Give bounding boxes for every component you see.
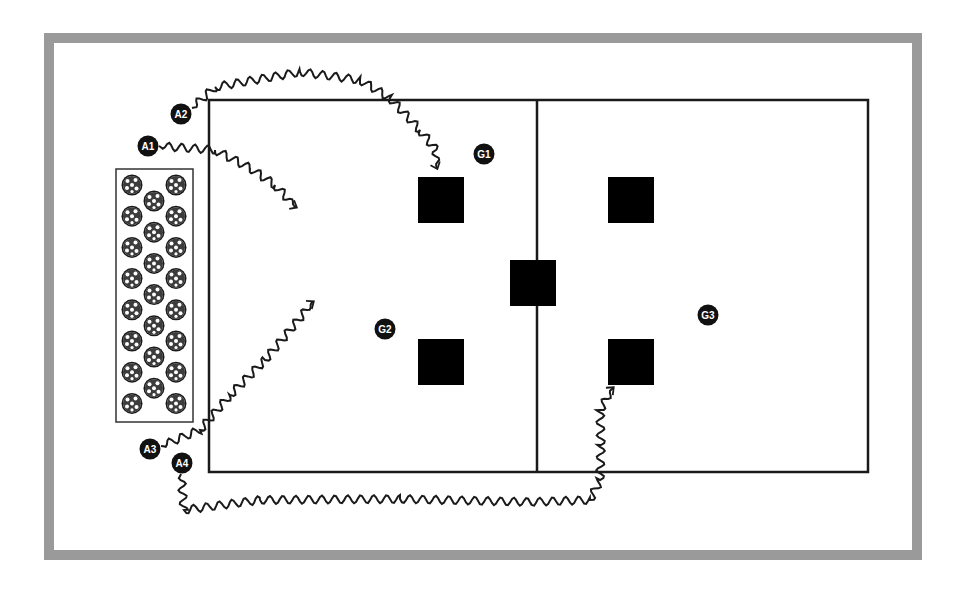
drill-diagram: A1A2A3A4G1G2G3 <box>0 0 963 594</box>
player-a1: A1 <box>138 136 159 157</box>
soccer-ball-icon <box>166 206 187 227</box>
player-label: G3 <box>701 310 715 321</box>
soccer-ball-icon <box>166 393 187 414</box>
soccer-ball-icon <box>166 299 187 320</box>
player-a4: A4 <box>172 453 193 474</box>
path-a4-dribble <box>178 388 613 513</box>
player-label: G2 <box>378 324 392 335</box>
player-g2: G2 <box>375 319 396 340</box>
player-label: A2 <box>175 109 188 120</box>
soccer-ball-icon <box>122 268 143 289</box>
soccer-ball-icon <box>122 362 143 383</box>
player-g1: G1 <box>474 144 495 165</box>
cone-2 <box>418 339 464 385</box>
soccer-ball-icon <box>144 191 165 212</box>
soccer-ball-icon <box>122 237 143 258</box>
soccer-ball-icon <box>122 393 143 414</box>
soccer-ball-icon <box>144 284 165 305</box>
player-g3: G3 <box>698 305 719 326</box>
soccer-ball-icon <box>166 175 187 196</box>
player-label: A1 <box>142 141 155 152</box>
soccer-ball-icon <box>122 175 143 196</box>
ball-bin <box>116 169 193 422</box>
player-label: G1 <box>477 149 491 160</box>
players-group: A1A2A3A4G1G2G3 <box>138 104 719 474</box>
soccer-ball-icon <box>166 237 187 258</box>
soccer-ball-icon <box>122 299 143 320</box>
player-label: A3 <box>144 444 157 455</box>
cone-4 <box>608 177 654 223</box>
soccer-ball-icon <box>166 362 187 383</box>
soccer-ball-icon <box>144 347 165 368</box>
player-a3: A3 <box>140 439 161 460</box>
soccer-ball-icon <box>166 268 187 289</box>
cone-5 <box>608 339 654 385</box>
player-label: A4 <box>176 458 189 469</box>
player-a2: A2 <box>171 104 192 125</box>
soccer-ball-icon <box>122 206 143 227</box>
soccer-ball-icon <box>144 378 165 399</box>
soccer-ball-icon <box>144 253 165 274</box>
soccer-ball-icon <box>122 331 143 352</box>
cone-3 <box>510 260 556 306</box>
soccer-ball-icon <box>166 331 187 352</box>
soccer-ball-icon <box>144 222 165 243</box>
path-a2-dribble <box>192 69 439 168</box>
cone-1 <box>418 177 464 223</box>
soccer-ball-icon <box>144 315 165 336</box>
